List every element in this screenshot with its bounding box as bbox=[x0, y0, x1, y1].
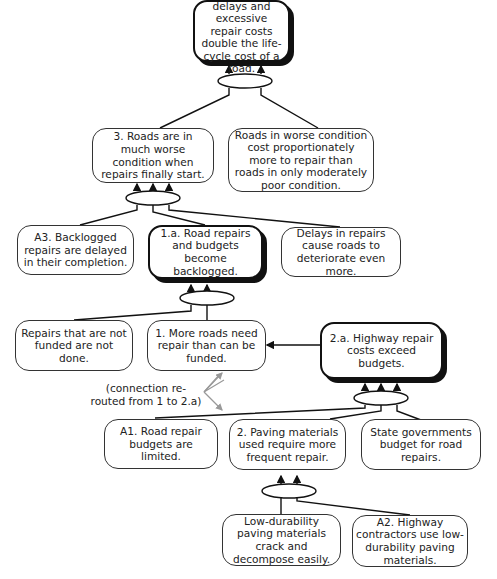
node-not-funded-not-done: Repairs that are not funded are not done… bbox=[15, 320, 133, 371]
node-a1-budgets-limited: A1. Road repair budgets are limited. bbox=[104, 419, 218, 469]
node-text: Roads in worse condition cost proportion… bbox=[233, 129, 369, 192]
node-3a-repair-delays-double-cost: 3.a. Repair delays and excessive repair … bbox=[193, 0, 290, 62]
node-a3-backlogged-delayed: A3. Backlogged repairs are delayed in th… bbox=[17, 225, 134, 275]
node-text: Low-durability paving materials crack an… bbox=[227, 515, 336, 565]
node-text: 2.a. Highway repair costs exceed budgets… bbox=[326, 332, 437, 370]
node-text: A1. Road repair budgets are limited. bbox=[109, 425, 213, 463]
node-delays-deteriorate: Delays in repairs cause roads to deterio… bbox=[281, 227, 401, 277]
node-1a-backlogged: 1.a. Road repairs and budgets become bac… bbox=[148, 225, 263, 279]
node-text: State governments budget for road repair… bbox=[366, 426, 476, 464]
node-low-durability-crack: Low-durability paving materials crack an… bbox=[222, 514, 341, 566]
node-1-more-roads-need-repair: 1. More roads need repair than can be fu… bbox=[147, 320, 266, 371]
node-text: 2. Paving materials used require more fr… bbox=[234, 426, 341, 464]
node-state-budget: State governments budget for road repair… bbox=[361, 419, 481, 470]
node-text: 3. Roads are in much worse condition whe… bbox=[97, 130, 209, 180]
node-2a-costs-exceed-budgets: 2.a. Highway repair costs exceed budgets… bbox=[320, 322, 443, 379]
node-text: A2. Highway contractors use low-durabili… bbox=[354, 516, 466, 566]
node-text: Repairs that are not funded are not done… bbox=[20, 327, 128, 365]
node-2-paving-materials: 2. Paving materials used require more fr… bbox=[229, 419, 346, 470]
node-worse-condition-cost: Roads in worse condition cost proportion… bbox=[228, 128, 374, 192]
reroute-annotation: (connection re-routed from 1 to 2.a) bbox=[90, 382, 202, 407]
node-3-worse-condition: 3. Roads are in much worse condition whe… bbox=[92, 128, 214, 183]
node-text: 3.a. Repair delays and excessive repair … bbox=[199, 0, 284, 75]
node-text: A3. Backlogged repairs are delayed in th… bbox=[22, 231, 129, 269]
node-text: 1. More roads need repair than can be fu… bbox=[152, 327, 261, 365]
connector-lines bbox=[0, 0, 497, 579]
node-text: Delays in repairs cause roads to deterio… bbox=[286, 227, 396, 277]
node-text: 1.a. Road repairs and budgets become bac… bbox=[154, 227, 257, 277]
node-a2-contractors-low-durability: A2. Highway contractors use low-durabili… bbox=[352, 515, 468, 567]
